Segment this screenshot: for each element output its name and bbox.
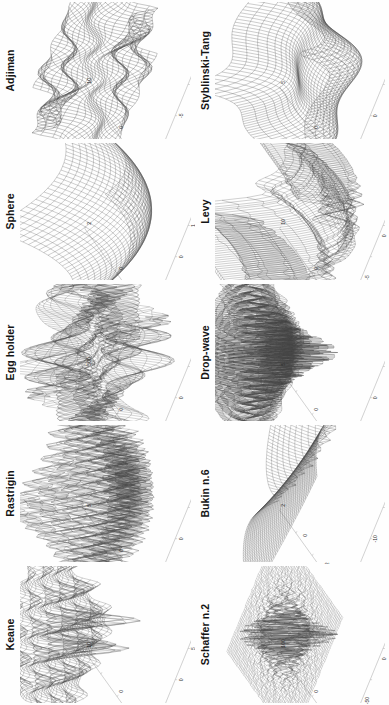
surface-styblinski-tang — [215, 2, 386, 139]
panel-levy[interactable]: Levy 0 100 200 300 400 500 -10 -5 0 5 — [195, 141, 389, 282]
panel-drop-wave[interactable]: Drop-wave -1 -0.8 -0.6 -0.4 -0.2 0 -5 0 … — [195, 282, 389, 423]
panel-styblinski-tang[interactable]: Styblinski-Tang -100 -50 0 50 100 150 20… — [195, 0, 389, 141]
panel-title: Egg holder — [4, 282, 16, 423]
panel-title: Rastrigin — [4, 423, 16, 564]
plot-area: 0 100 200 300 400 500 -10 -5 0 5 -10 0 1… — [215, 143, 386, 280]
plot-area: -1 -0.8 -0.6 -0.4 -0.2 0 -5 0 5 -5 0 5 — [215, 284, 386, 421]
plot-area: -10 -5 0 5 10 -10 -5 0 -10 0 10 — [20, 2, 191, 139]
surface-keane — [20, 566, 191, 703]
plot-area: -1000 -500 0 500 1000 -500 0 500 -500 0 … — [20, 284, 191, 421]
panel-title: Levy — [199, 141, 211, 282]
panel-schaffer-n2[interactable]: Schaffer n.2 0 0.2 0.4 0.6 0.8 -100 -50 … — [195, 564, 389, 705]
plot-area: 0 2 4 6 8 -2 -1 0 1 2 -2 0 2 — [20, 143, 191, 280]
surface-adjiman — [20, 2, 191, 139]
panel-title: Sphere — [4, 141, 16, 282]
panel-title: Adjiman — [4, 0, 16, 141]
figure-root: Keane -0.8 -0.6 -0.4 -0.2 0 -10 -5 0 5 — [0, 0, 389, 705]
surface-schaffer-n2 — [215, 566, 386, 703]
plot-area: 0 50 100 150 200 250 -15 -10 -5 -4 -2 0 … — [215, 425, 386, 562]
panel-egg-holder[interactable]: Egg holder -1000 -500 0 500 1000 -500 0 … — [0, 282, 195, 423]
panel-title: Bukin n.6 — [199, 423, 211, 564]
panel-title: Schaffer n.2 — [199, 564, 211, 705]
panel-rastrigin[interactable]: Rastrigin 0 20 40 60 80 -5 0 5 -5 0 — [0, 423, 195, 564]
rotated-figure-stage: Keane -0.8 -0.6 -0.4 -0.2 0 -10 -5 0 5 — [0, 0, 389, 705]
plot-area: 0 20 40 60 80 -5 0 5 -5 0 5 — [20, 425, 191, 562]
surface-sphere — [20, 143, 191, 280]
plot-area: -0.8 -0.6 -0.4 -0.2 0 -10 -5 0 5 10 -10 … — [20, 566, 191, 703]
panel-title: Drop-wave — [199, 282, 211, 423]
panel-title: Keane — [4, 564, 16, 705]
panel-sphere[interactable]: Sphere 0 2 4 6 8 -2 -1 0 1 2 — [0, 141, 195, 282]
surface-drop-wave — [215, 284, 386, 421]
surface-egg-holder — [20, 284, 191, 421]
surface-rastrigin — [20, 425, 191, 562]
panel-title: Styblinski-Tang — [199, 0, 211, 141]
panel-keane[interactable]: Keane -0.8 -0.6 -0.4 -0.2 0 -10 -5 0 5 — [0, 564, 195, 705]
panel-bukin-n6[interactable]: Bukin n.6 0 50 100 150 200 250 -15 -10 -… — [195, 423, 389, 564]
panel-grid: Keane -0.8 -0.6 -0.4 -0.2 0 -10 -5 0 5 — [0, 0, 389, 705]
y-tick: -2 — [325, 562, 330, 564]
panel-adjiman[interactable]: Adjiman -10 -5 0 5 10 -10 -5 0 -10 0 — [0, 0, 195, 141]
plot-area: 0 0.2 0.4 0.6 0.8 -100 -50 0 50 -100 0 1… — [215, 566, 386, 703]
surface-levy — [215, 143, 386, 280]
surface-bukin-n6 — [215, 425, 386, 562]
plot-area: -100 -50 0 50 100 150 200 -5 0 5 -5 0 5 — [215, 2, 386, 139]
